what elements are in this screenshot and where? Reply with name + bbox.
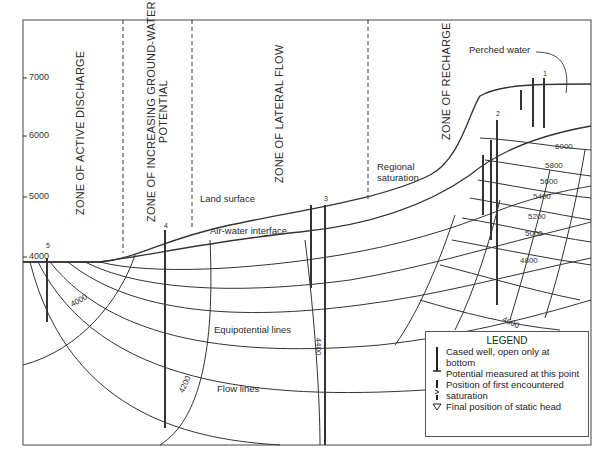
legend-item-static-head: Final position of static head [428, 401, 586, 412]
equipotential-line [455, 200, 500, 330]
contour-4400: 4400 [314, 338, 323, 356]
air-water-interface-label: Air-water interface [210, 225, 287, 236]
contour-5400: 5400 [533, 192, 551, 201]
y-tick-5000: 5000 [29, 191, 49, 201]
zone-active-discharge-label: ZONE OF ACTIVE DISCHARGE [74, 51, 86, 215]
legend-item-potential: Potential measured at this point [428, 368, 586, 379]
legend-title: LEGEND [426, 335, 588, 346]
equipotential-line [23, 255, 135, 365]
contour-5000: 5000 [525, 229, 543, 238]
contour-5200: 5200 [528, 212, 546, 221]
y-tick-7000: 7000 [29, 72, 49, 82]
first-saturation-icon [432, 380, 442, 402]
zone-recharge-label: ZONE OF RECHARGE [440, 23, 452, 141]
equipotential-line [395, 215, 455, 345]
legend-box: LEGEND Cased well, open only at bottom P… [425, 331, 589, 437]
flow-line [30, 262, 280, 445]
zone-increasing-potential-label: ZONE OF INCREASING GROUND-WATER POTENTIA… [145, 1, 169, 222]
equipotential-lines-label: Equipotential lines [214, 324, 291, 335]
contour-4800: 4800 [520, 256, 538, 265]
regional-saturation-label: Regional saturation [377, 161, 419, 183]
y-tick-6000: 6000 [29, 130, 49, 140]
perched-water-label: Perched water [469, 44, 530, 55]
legend-item-first-saturation: Position of first encountered saturation [428, 379, 586, 401]
flow-lines-label: Flow lines [217, 383, 259, 394]
well-4-number: 4 [164, 222, 168, 229]
contour-5600: 5600 [540, 177, 558, 186]
equipotential-line [160, 240, 211, 445]
well-1-number: 1 [543, 70, 547, 77]
flow-line [100, 186, 591, 269]
equipotential-line [545, 150, 585, 318]
well-5-number: 5 [46, 242, 50, 249]
contour-5800: 5800 [545, 161, 563, 170]
land-surface-line [23, 84, 591, 262]
y-tick-4000: 4000 [29, 251, 49, 261]
zone-lateral-flow-label: ZONE OF LATERAL FLOW [273, 45, 285, 183]
land-surface-label: Land surface [200, 193, 255, 204]
contour-6000: 6000 [555, 142, 573, 151]
well-3-number: 3 [324, 195, 328, 202]
well-2-number: 2 [496, 110, 500, 117]
flow-line [68, 258, 591, 313]
water-table-line [23, 126, 591, 262]
static-head-triangle-icon [432, 403, 442, 413]
legend-item-cased-well: Cased well, open only at bottom [428, 346, 586, 368]
